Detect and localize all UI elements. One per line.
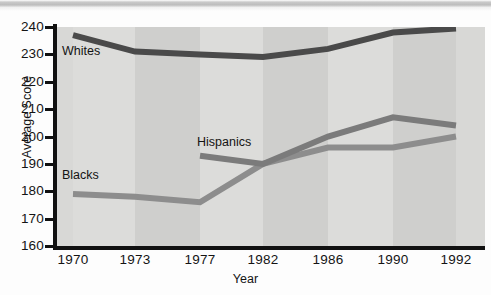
y-axis-tick-label: 180 [0, 183, 44, 198]
series-line-blacks [73, 137, 456, 203]
x-axis-tick-label: 1977 [170, 252, 230, 267]
page-header-strip-shadow [0, 7, 491, 11]
plot-area [57, 27, 485, 246]
y-axis-title: Average Score [20, 57, 34, 177]
page-header-strip [0, 0, 491, 7]
chart-figure: 240230220210200190180170160 197019731977… [0, 0, 491, 295]
x-axis-line [53, 246, 485, 250]
series-line-whites [73, 28, 456, 57]
x-axis-tick-label: 1982 [233, 252, 293, 267]
y-axis-tick-label: 160 [0, 238, 44, 253]
series-label-whites: Whites [62, 44, 100, 58]
x-axis-title: Year [0, 272, 491, 286]
series-label-hispanics: Hispanics [197, 135, 251, 149]
series-lines [57, 27, 485, 246]
series-label-blacks: Blacks [62, 168, 99, 182]
x-axis-tick-label: 1990 [363, 252, 423, 267]
y-axis-line [53, 24, 57, 249]
x-axis-tick-label: 1986 [298, 252, 358, 267]
x-axis-tick-label: 1973 [105, 252, 165, 267]
y-axis-tick-label: 240 [0, 19, 44, 34]
x-axis-tick-label: 1992 [426, 252, 486, 267]
x-axis-tick-label: 1970 [43, 252, 103, 267]
y-axis-tick-label: 170 [0, 211, 44, 226]
